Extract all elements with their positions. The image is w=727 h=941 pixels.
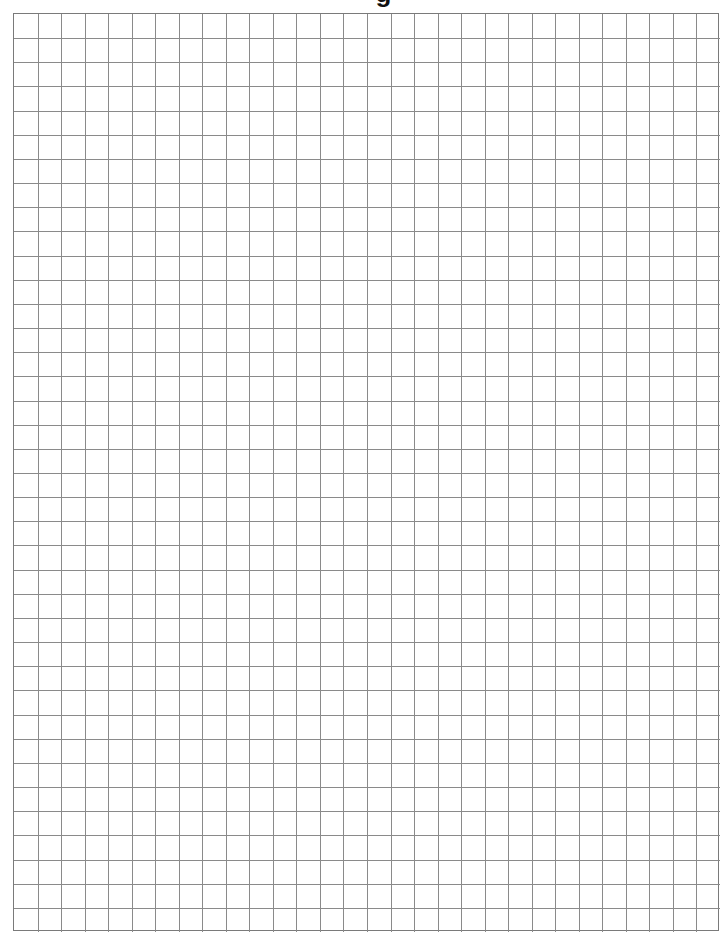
clipped-page-title: g	[0, 0, 727, 8]
grid-lines	[14, 14, 720, 932]
page-title-fragment: g	[336, 0, 392, 8]
graph-paper-grid	[13, 13, 719, 931]
